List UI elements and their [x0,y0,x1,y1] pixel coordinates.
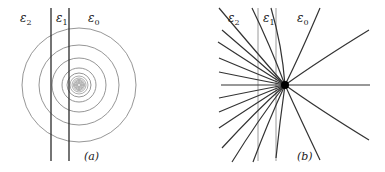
equipotential-circle [52,58,106,112]
point-charge [281,81,289,89]
figure-canvas: ε2 ε1 ε0 (a) ε2 ε1 ε0 (b) [0,0,385,172]
caption-b: (b) [297,150,313,163]
label-epsilon-0-a: ε0 [88,11,100,27]
field-line [219,58,285,85]
panel-b-field-lines-diagram [218,8,370,162]
equipotential-circle [67,73,91,97]
equipotential-circle [72,78,86,92]
label-epsilon-0-b: ε0 [297,11,309,27]
field-line [285,85,320,160]
caption-a: (a) [84,150,99,163]
label-epsilon-1-a: ε1 [56,11,68,27]
panel-a-circles-diagram [22,8,136,161]
label-epsilon-2-b: ε2 [228,11,240,27]
equipotential-circle [78,84,81,87]
equipotential-circle [70,76,88,94]
label-epsilon-2-a: ε2 [20,11,32,27]
